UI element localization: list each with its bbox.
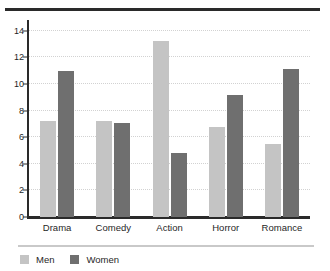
x-axis-label-horror: Horror xyxy=(198,222,254,233)
bar-romance-men xyxy=(265,144,281,217)
bar-group-romance xyxy=(254,20,310,217)
legend-item-women: Women xyxy=(70,254,119,265)
legend-separator-rule xyxy=(18,245,314,247)
legend-swatch-men xyxy=(20,255,29,264)
y-axis-tick-mark xyxy=(23,190,28,191)
bar-groups xyxy=(29,20,310,217)
legend-item-men: Men xyxy=(20,254,54,265)
grouped-bar-chart-figure: 02468101214 DramaComedyActionHorrorRoman… xyxy=(0,0,330,271)
plot-wrapper: 02468101214 xyxy=(0,20,330,220)
legend-swatch-women xyxy=(70,255,79,264)
bar-horror-men xyxy=(209,127,225,217)
x-axis-label-drama: Drama xyxy=(29,222,85,233)
bar-drama-women xyxy=(58,71,74,217)
x-axis-label-comedy: Comedy xyxy=(85,222,141,233)
plot-area xyxy=(29,20,310,217)
x-axis-label-romance: Romance xyxy=(254,222,310,233)
y-axis-tick-mark xyxy=(23,137,28,138)
y-axis-tick-labels: 02468101214 xyxy=(0,20,24,220)
bar-group-action xyxy=(141,20,197,217)
legend-label-men: Men xyxy=(36,254,54,265)
figure-top-rule xyxy=(5,8,320,11)
legend-label-women: Women xyxy=(86,254,119,265)
y-axis-tick-mark xyxy=(23,110,28,111)
chart-legend: MenWomen xyxy=(20,254,119,265)
x-axis-label-action: Action xyxy=(141,222,197,233)
y-axis-tick-mark xyxy=(23,83,28,84)
bar-group-drama xyxy=(29,20,85,217)
bar-action-men xyxy=(153,41,169,217)
bar-comedy-men xyxy=(96,121,112,218)
bar-drama-men xyxy=(40,121,56,217)
y-axis-tick-mark xyxy=(23,163,28,164)
bar-action-women xyxy=(171,153,187,217)
y-axis-tick-mark xyxy=(23,217,28,218)
bar-horror-women xyxy=(227,95,243,217)
bar-group-horror xyxy=(198,20,254,217)
x-axis-category-labels: DramaComedyActionHorrorRomance xyxy=(29,222,310,233)
bar-romance-women xyxy=(283,69,299,217)
y-axis-tick-mark xyxy=(23,57,28,58)
y-axis-tick-mark xyxy=(23,30,28,31)
bar-comedy-women xyxy=(114,123,130,217)
bar-group-comedy xyxy=(85,20,141,217)
